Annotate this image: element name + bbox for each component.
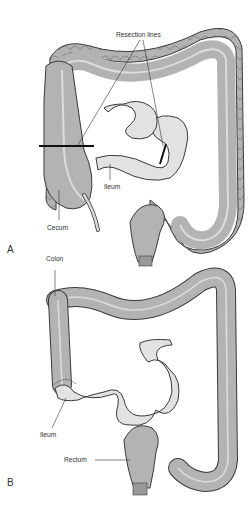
label-resection-lines: Resection lines (116, 30, 161, 39)
label-ileum-a: Ileum (104, 182, 120, 191)
panel-b-letter: B (7, 477, 14, 488)
anatomy-illustration (0, 0, 252, 529)
cecum-a (44, 61, 92, 209)
label-rectum: Rectum (64, 455, 87, 464)
panel-a-illustration (39, 28, 244, 266)
label-colon: Colon (46, 254, 63, 263)
panel-a-letter: A (7, 244, 14, 255)
label-ileum-b: Ileum (40, 430, 56, 439)
resection-line-distal (160, 144, 166, 164)
colon-resection-diagram: Resection lines Ileum Cecum A Colon Ileu… (0, 0, 252, 529)
ileum-b (55, 339, 179, 425)
rectum-b (124, 426, 158, 488)
rectum-a (130, 205, 165, 262)
label-cecum: Cecum (47, 223, 68, 232)
